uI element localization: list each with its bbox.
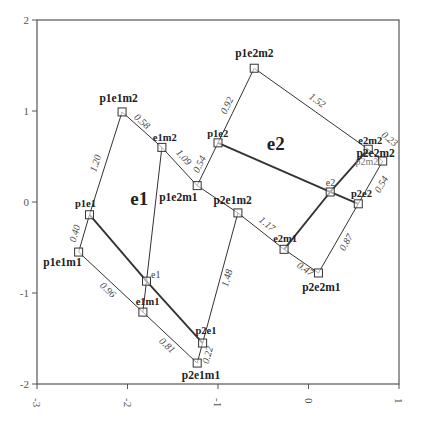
point-label-p2e1: p2e1 xyxy=(195,325,216,336)
square-marker-icon xyxy=(85,211,93,219)
square-marker-icon xyxy=(280,245,288,253)
scatter-plot: 210-1-2-3-2-101 1.200.581.090.400.960.81… xyxy=(0,0,423,426)
y-tick-label: 2 xyxy=(24,14,30,26)
point-markers xyxy=(75,64,387,367)
x-tick-label: 0 xyxy=(303,398,315,404)
point-label-p2e1m2: p2e1m2 xyxy=(213,194,252,207)
edge-weight-label: 0.22 xyxy=(200,345,215,365)
y-tick-label: 0 xyxy=(24,196,30,208)
edge-p1e1-e1 xyxy=(89,215,146,281)
edge-weight-label: 1.20 xyxy=(87,153,103,173)
edge-p1e1m1-e1m1 xyxy=(79,252,143,312)
edge-weight-label: 0.40 xyxy=(67,223,82,243)
point-label-p1e1: p1e1 xyxy=(75,198,96,209)
edge-weight-label: 0.47 xyxy=(295,259,316,279)
edge-weight-label: 0.81 xyxy=(157,335,177,355)
point-label-p2e2: p2e2 xyxy=(351,188,372,199)
edge-weight-label: 0.96 xyxy=(98,280,118,300)
edge-weight-label: 0.54 xyxy=(372,174,390,195)
square-marker-icon xyxy=(193,182,201,190)
point-label-e2m1: e2m1 xyxy=(273,233,297,244)
x-tick-label: 1 xyxy=(393,398,405,404)
region-label-e2: e2 xyxy=(267,133,285,154)
point-label-e1m1: e1m1 xyxy=(136,296,160,307)
y-tick-label: -2 xyxy=(20,378,29,390)
point-label-p1e2m1: p1e2m1 xyxy=(159,191,198,204)
edge-e1m1-p2e1m1 xyxy=(143,312,197,363)
edge-weight-label: 0.54 xyxy=(190,154,208,175)
x-tick-label: -3 xyxy=(31,398,43,408)
square-marker-icon xyxy=(199,339,207,347)
square-marker-icon xyxy=(234,209,242,217)
point-label-e2m2: e2m2 xyxy=(358,135,382,146)
square-marker-icon xyxy=(214,139,222,147)
x-tick-label: -1 xyxy=(212,398,224,407)
edge-weight-label: 0.87 xyxy=(337,231,356,253)
square-marker-icon xyxy=(158,143,166,151)
square-marker-icon xyxy=(314,269,322,277)
edge-weight-label: 0.58 xyxy=(132,111,152,131)
point-label-p1e1m2: p1e1m2 xyxy=(99,92,138,105)
point-label-p1e2: p1e2 xyxy=(207,128,228,139)
square-marker-icon xyxy=(326,188,334,196)
square-marker-icon xyxy=(250,64,258,72)
y-tick-label: -1 xyxy=(20,287,29,299)
region-label-e1: e1 xyxy=(130,188,148,209)
point-labels: p1e1m2e1m2p1e1p1e1m1e1e1m1p2e1p2e1m1p1e2… xyxy=(43,47,395,382)
square-marker-icon xyxy=(143,277,151,285)
square-marker-icon xyxy=(118,108,126,116)
edge-e1m2-e1 xyxy=(147,147,162,281)
point-label-p2e1m1: p2e1m1 xyxy=(182,369,221,382)
point-label-p1e2m2: p1e2m2 xyxy=(235,47,274,60)
square-marker-icon xyxy=(354,200,362,208)
y-tick-label: 1 xyxy=(24,105,30,117)
point-label-p2e2m1: p2e2m1 xyxy=(302,281,341,294)
point-label-p1e1m1: p1e1m1 xyxy=(43,256,82,269)
point-label-e2: e2 xyxy=(326,177,335,188)
point-label-e1m2: e1m2 xyxy=(153,132,177,143)
region-labels: e1e2 xyxy=(130,133,285,209)
edge-weight-label: 1.52 xyxy=(307,91,328,110)
edge-e1-p2e1 xyxy=(147,281,203,343)
point-label-e1: e1 xyxy=(151,269,160,280)
square-marker-icon xyxy=(193,359,201,367)
square-marker-icon xyxy=(139,308,147,316)
x-tick-label: -2 xyxy=(122,398,134,407)
point-label-p2m2: p2m2 xyxy=(356,156,379,167)
edge-weight-label: 1.48 xyxy=(219,268,234,288)
